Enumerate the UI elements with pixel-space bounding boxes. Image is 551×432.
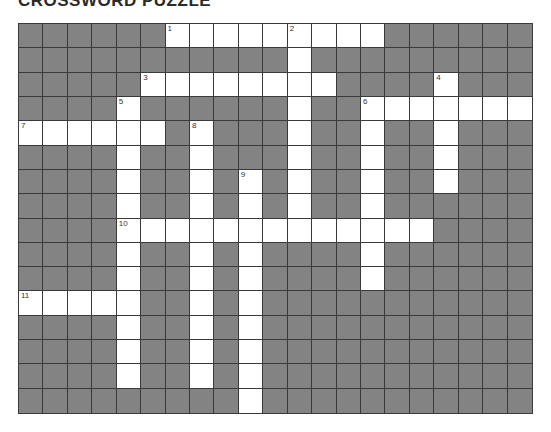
answer-cell[interactable] [239,24,263,48]
answer-cell[interactable] [434,97,458,121]
answer-cell[interactable] [288,73,312,97]
answer-cell[interactable]: 7 [19,121,43,145]
answer-cell[interactable] [141,219,165,243]
answer-cell[interactable] [190,219,214,243]
answer-cell[interactable] [288,97,312,121]
block-cell [214,389,238,413]
answer-cell[interactable] [190,243,214,267]
answer-cell[interactable] [117,316,141,340]
answer-cell[interactable]: 6 [361,97,385,121]
answer-cell[interactable] [263,73,287,97]
answer-cell[interactable]: 4 [434,73,458,97]
answer-cell[interactable] [312,73,336,97]
answer-cell[interactable] [288,146,312,170]
answer-cell[interactable]: 11 [19,291,43,315]
answer-cell[interactable] [508,97,532,121]
answer-cell[interactable] [434,146,458,170]
block-cell [141,291,165,315]
answer-cell[interactable] [239,243,263,267]
answer-cell[interactable] [92,291,116,315]
block-cell [92,24,116,48]
answer-cell[interactable] [361,267,385,291]
answer-cell[interactable]: 2 [288,24,312,48]
answer-cell[interactable] [68,291,92,315]
answer-cell[interactable] [361,219,385,243]
answer-cell[interactable] [239,389,263,413]
answer-cell[interactable] [214,219,238,243]
block-cell [43,316,67,340]
block-cell [92,316,116,340]
answer-cell[interactable] [288,219,312,243]
answer-cell[interactable]: 3 [141,73,165,97]
answer-cell[interactable] [239,340,263,364]
answer-cell[interactable] [459,97,483,121]
answer-cell[interactable] [190,340,214,364]
answer-cell[interactable] [166,219,190,243]
answer-cell[interactable] [361,146,385,170]
answer-cell[interactable] [117,170,141,194]
answer-cell[interactable] [434,121,458,145]
answer-cell[interactable] [190,364,214,388]
answer-cell[interactable] [190,267,214,291]
answer-cell[interactable] [43,291,67,315]
answer-cell[interactable] [312,219,336,243]
answer-cell[interactable] [92,121,116,145]
answer-cell[interactable] [288,194,312,218]
answer-cell[interactable] [288,121,312,145]
answer-cell[interactable] [190,146,214,170]
answer-cell[interactable] [263,219,287,243]
answer-cell[interactable] [337,24,361,48]
answer-cell[interactable] [263,24,287,48]
answer-cell[interactable] [361,121,385,145]
answer-cell[interactable] [166,73,190,97]
answer-cell[interactable]: 9 [239,170,263,194]
answer-cell[interactable] [361,194,385,218]
answer-cell[interactable]: 5 [117,97,141,121]
answer-cell[interactable] [68,121,92,145]
answer-cell[interactable] [117,267,141,291]
answer-cell[interactable] [312,24,336,48]
answer-cell[interactable] [190,194,214,218]
answer-cell[interactable] [214,73,238,97]
answer-cell[interactable] [385,97,409,121]
answer-cell[interactable] [239,316,263,340]
answer-cell[interactable] [43,121,67,145]
answer-cell[interactable] [361,170,385,194]
answer-cell[interactable] [361,243,385,267]
answer-cell[interactable] [117,364,141,388]
answer-cell[interactable] [410,97,434,121]
answer-cell[interactable] [239,219,263,243]
answer-cell[interactable]: 1 [166,24,190,48]
answer-cell[interactable] [190,291,214,315]
block-cell [214,340,238,364]
answer-cell[interactable] [214,24,238,48]
block-cell [508,194,532,218]
answer-cell[interactable] [385,219,409,243]
answer-cell[interactable] [117,194,141,218]
answer-cell[interactable] [434,170,458,194]
answer-cell[interactable] [288,48,312,72]
answer-cell[interactable] [190,73,214,97]
answer-cell[interactable] [190,24,214,48]
answer-cell[interactable] [117,121,141,145]
answer-cell[interactable] [190,316,214,340]
answer-cell[interactable] [239,364,263,388]
answer-cell[interactable] [239,267,263,291]
answer-cell[interactable] [483,97,507,121]
answer-cell[interactable] [361,24,385,48]
answer-cell[interactable] [117,146,141,170]
answer-cell[interactable] [117,340,141,364]
answer-cell[interactable] [117,291,141,315]
answer-cell[interactable] [239,73,263,97]
answer-cell[interactable]: 8 [190,121,214,145]
answer-cell[interactable] [239,194,263,218]
answer-cell[interactable] [337,219,361,243]
answer-cell[interactable] [410,219,434,243]
answer-cell[interactable] [117,243,141,267]
block-cell [410,364,434,388]
answer-cell[interactable] [288,170,312,194]
answer-cell[interactable] [239,291,263,315]
answer-cell[interactable]: 10 [117,219,141,243]
answer-cell[interactable] [190,170,214,194]
answer-cell[interactable] [141,121,165,145]
